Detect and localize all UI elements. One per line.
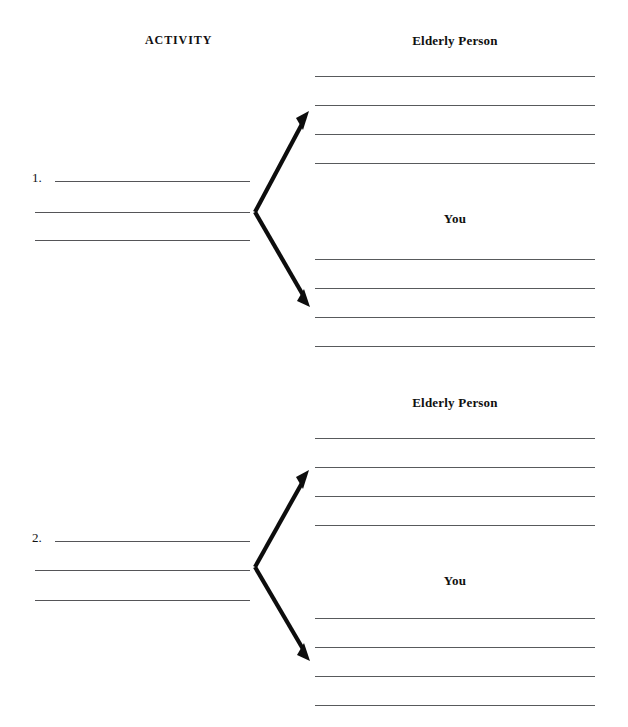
activity-column-heading: ACTIVITY: [145, 33, 212, 48]
section-2-elderly-person-heading: Elderly Person: [412, 395, 498, 411]
section-1-elderly-rule-3[interactable]: [315, 134, 595, 135]
section-2-you-rule-3[interactable]: [315, 676, 595, 677]
section-1-elderly-rule-2[interactable]: [315, 105, 595, 106]
section-1-you-rule-1[interactable]: [315, 259, 595, 260]
section-2-lower-arrow: [255, 567, 310, 661]
section-2-upper-arrow: [255, 470, 309, 567]
section-1-activity-rule-3[interactable]: [35, 240, 250, 241]
section-2-activity-rule-3[interactable]: [35, 600, 250, 601]
section-1-you-rule-4[interactable]: [315, 346, 595, 347]
worksheet-page: ACTIVITY Elderly Person You 1. Elderly P…: [0, 0, 628, 727]
section-2-item-number: 2.: [32, 530, 42, 546]
section-1-you-heading: You: [444, 211, 466, 227]
section-2-elderly-rule-3[interactable]: [315, 496, 595, 497]
section-1-activity-rule-2[interactable]: [35, 212, 250, 213]
section-2-activity-rule-1[interactable]: [55, 541, 250, 542]
section-2-activity-rule-2[interactable]: [35, 570, 250, 571]
section-2-you-heading: You: [444, 573, 466, 589]
section-1-lower-arrow: [255, 212, 310, 307]
section-1-elderly-person-heading: Elderly Person: [412, 33, 498, 49]
section-1-item-number: 1.: [32, 170, 42, 186]
section-2-elderly-rule-4[interactable]: [315, 525, 595, 526]
section-1-upper-arrow: [255, 111, 309, 212]
section-2-you-rule-4[interactable]: [315, 705, 595, 706]
section-1-activity-rule-1[interactable]: [55, 181, 250, 182]
section-2-elderly-rule-1[interactable]: [315, 438, 595, 439]
section-2-elderly-rule-2[interactable]: [315, 467, 595, 468]
section-1-elderly-rule-1[interactable]: [315, 76, 595, 77]
section-2-you-rule-2[interactable]: [315, 647, 595, 648]
section-2-you-rule-1[interactable]: [315, 618, 595, 619]
section-1-elderly-rule-4[interactable]: [315, 163, 595, 164]
section-1-you-rule-2[interactable]: [315, 288, 595, 289]
section-1-you-rule-3[interactable]: [315, 317, 595, 318]
